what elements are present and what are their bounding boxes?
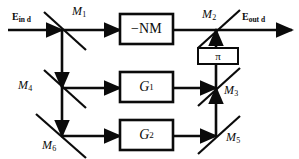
mirror-label-M4: M4 — [18, 79, 32, 93]
mirror-label-M2: M2 — [202, 8, 216, 22]
pi-box-label: π — [198, 48, 238, 64]
output-field-label: Eout d — [242, 12, 265, 24]
mirror-label-M6: M6 — [42, 139, 56, 153]
mirror-label-M1: M1 — [72, 5, 86, 19]
mirror-label-M5: M5 — [226, 131, 240, 145]
g2-box-label: G2 — [120, 120, 173, 150]
optical-interferometer-diagram: −NM G1 G2 π Ein d Eout d M1 M2 M3 M4 M5 … — [0, 0, 299, 159]
nm-box-label: −NM — [120, 14, 173, 44]
mirror-label-M3: M3 — [224, 84, 238, 98]
g1-box-label: G1 — [120, 72, 173, 102]
input-field-label: Ein d — [12, 12, 31, 24]
